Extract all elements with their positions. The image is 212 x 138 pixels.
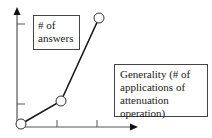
x-axis-label-line: Generality (# of: [120, 68, 202, 81]
data-point-marker: [16, 119, 26, 129]
data-point-marker: [94, 13, 104, 23]
y-axis-label-line: answers: [38, 32, 75, 45]
x-axis-label-line: attenuation: [120, 94, 202, 107]
x-axis-label-box: Generality (# of applications of attenua…: [114, 64, 208, 117]
x-axis: [17, 120, 138, 131]
y-axis-label-line: # of: [38, 19, 75, 32]
y-axis: [14, 7, 26, 127]
x-axis-label-line: operation): [120, 107, 202, 120]
x-axis-arrow-icon: [130, 124, 138, 131]
y-axis-label-box: # of answers: [33, 15, 80, 50]
y-axis-arrow-icon: [14, 7, 21, 15]
x-axis-label-line: applications of: [120, 81, 202, 94]
data-point-marker: [56, 96, 66, 106]
